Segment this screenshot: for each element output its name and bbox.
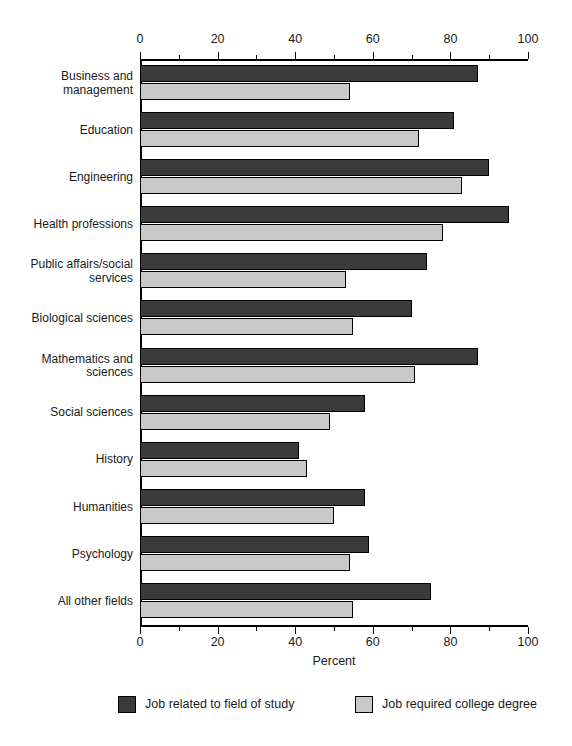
category-label-text: Humanities	[5, 501, 133, 515]
bar-0-9	[140, 489, 365, 506]
category-label-7: Social sciences	[0, 390, 133, 437]
bar-0-3	[140, 206, 509, 223]
bar-1-9	[140, 507, 334, 524]
bar-1-3	[140, 224, 443, 241]
bar-1-1	[140, 130, 419, 147]
bar-1-0	[140, 83, 350, 100]
bottom-tick-100	[528, 627, 529, 634]
legend-swatch-icon-0	[118, 696, 136, 713]
top-axis-line	[140, 59, 528, 61]
bar-0-1	[140, 112, 454, 129]
bottom-tick-10	[179, 627, 180, 631]
category-label-8: History	[0, 437, 133, 484]
category-label-text: Mathematics andsciences	[5, 353, 133, 380]
bar-1-5	[140, 318, 353, 335]
legend-label: Job related to field of study	[145, 697, 294, 711]
bottom-tick-90	[489, 627, 490, 631]
bar-1-8	[140, 460, 307, 477]
legend-item-1[interactable]: Job required college degree	[355, 694, 537, 714]
bar-0-0	[140, 65, 478, 82]
bar-1-2	[140, 177, 462, 194]
bottom-tick-80	[450, 627, 451, 634]
legend-swatch-icon-1	[355, 696, 373, 713]
top-tick-30	[256, 55, 257, 59]
bar-0-8	[140, 442, 299, 459]
legend-label: Job required college degree	[382, 697, 537, 711]
bar-0-7	[140, 395, 365, 412]
bottom-tick-50	[334, 627, 335, 631]
category-label-2: Engineering	[0, 154, 133, 201]
category-label-text: History	[5, 453, 133, 467]
top-tick-40	[295, 52, 296, 59]
bottom-tick-40	[295, 627, 296, 634]
top-tick-10	[179, 55, 180, 59]
top-tick-80	[450, 52, 451, 59]
bottom-tick-label-80: 80	[430, 635, 470, 649]
bar-0-2	[140, 159, 489, 176]
top-tick-label-60: 60	[353, 32, 393, 46]
top-tick-label-20: 20	[198, 32, 238, 46]
category-label-3: Health professions	[0, 201, 133, 248]
category-label-11: All other fields	[0, 578, 133, 625]
top-tick-label-80: 80	[430, 32, 470, 46]
category-label-text: All other fields	[5, 595, 133, 609]
bottom-tick-label-40: 40	[275, 635, 315, 649]
top-tick-90	[489, 55, 490, 59]
bottom-tick-60	[373, 627, 374, 634]
category-label-text: Psychology	[5, 548, 133, 562]
bottom-tick-20	[218, 627, 219, 634]
bar-0-5	[140, 300, 412, 317]
category-label-text: Health professions	[5, 218, 133, 232]
bottom-tick-label-100: 100	[508, 635, 548, 649]
bottom-tick-30	[256, 627, 257, 631]
bottom-tick-label-60: 60	[353, 635, 393, 649]
category-label-5: Biological sciences	[0, 295, 133, 342]
bar-1-7	[140, 413, 330, 430]
bar-0-6	[140, 348, 478, 365]
top-tick-50	[334, 55, 335, 59]
bottom-tick-label-20: 20	[198, 635, 238, 649]
category-label-text: Engineering	[5, 171, 133, 185]
bottom-tick-0	[140, 627, 141, 634]
bar-1-11	[140, 601, 353, 618]
top-tick-0	[140, 52, 141, 59]
chart-legend: Job related to field of studyJob require…	[118, 694, 538, 720]
category-label-text: Business andmanagement	[5, 70, 133, 97]
x-axis-title: Percent	[274, 654, 394, 668]
category-label-0: Business andmanagement	[0, 60, 133, 107]
bar-0-10	[140, 536, 369, 553]
category-label-9: Humanities	[0, 484, 133, 531]
category-label-text: Education	[5, 124, 133, 138]
top-tick-label-40: 40	[275, 32, 315, 46]
bottom-tick-label-0: 0	[120, 635, 160, 649]
top-tick-label-100: 100	[508, 32, 548, 46]
category-label-1: Education	[0, 107, 133, 154]
top-tick-100	[528, 52, 529, 59]
category-label-6: Mathematics andsciences	[0, 343, 133, 390]
category-label-text: Public affairs/socialservices	[5, 258, 133, 285]
bottom-tick-70	[412, 627, 413, 631]
category-label-text: Biological sciences	[5, 312, 133, 326]
top-tick-60	[373, 52, 374, 59]
top-tick-20	[218, 52, 219, 59]
bar-chart: 020406080100 020406080100 Percent Busine…	[0, 0, 572, 746]
category-label-4: Public affairs/socialservices	[0, 248, 133, 295]
bar-0-4	[140, 253, 427, 270]
legend-item-0[interactable]: Job related to field of study	[118, 694, 294, 714]
category-label-10: Psychology	[0, 531, 133, 578]
bar-1-4	[140, 271, 346, 288]
bar-0-11	[140, 583, 431, 600]
bar-1-6	[140, 366, 415, 383]
top-tick-70	[412, 55, 413, 59]
top-tick-label-0: 0	[120, 32, 160, 46]
bar-1-10	[140, 554, 350, 571]
category-label-text: Social sciences	[5, 406, 133, 420]
